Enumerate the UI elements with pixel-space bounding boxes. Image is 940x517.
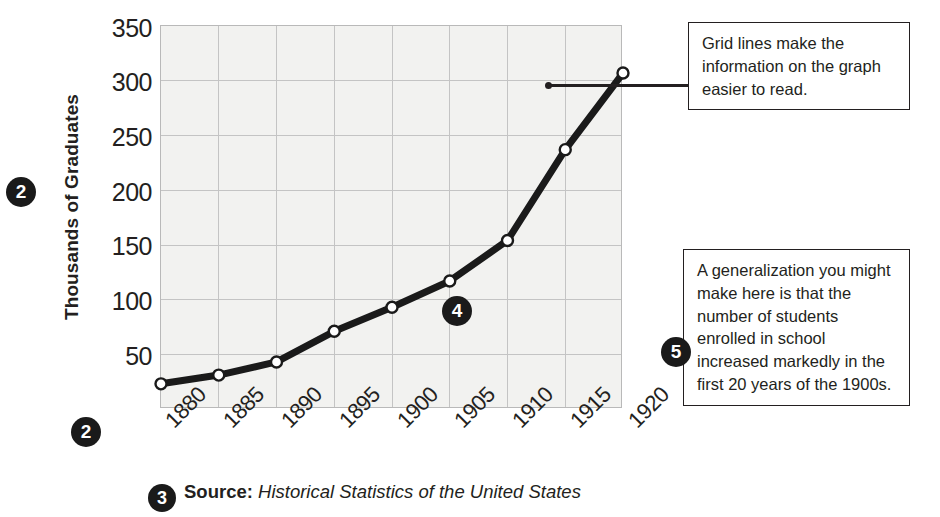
source-title: Historical Statistics of the United Stat… [258, 481, 581, 502]
y-axis-tick: 350 [112, 16, 152, 41]
callout-badge-3-source: 3 [148, 484, 176, 512]
source-label: Source: [184, 481, 253, 502]
data-point-marker [444, 275, 455, 286]
data-line [161, 73, 623, 384]
source-line: Source: Historical Statistics of the Uni… [184, 481, 581, 503]
callout-box-gridlines: Grid lines make the information on the g… [688, 22, 910, 110]
data-point-marker [387, 302, 398, 313]
y-axis-tick: 250 [112, 125, 152, 150]
callout-badge-4-plot: 4 [442, 296, 472, 326]
data-point-markers [156, 68, 629, 390]
data-point-marker [156, 378, 167, 389]
callout-badge-5-generalization: 5 [661, 337, 691, 367]
y-axis-tick: 50 [125, 344, 152, 369]
data-point-marker [213, 370, 224, 381]
y-axis-tick: 300 [112, 70, 152, 95]
data-point-marker [618, 68, 629, 79]
callout-text-generalization: A generalization you might make here is … [697, 259, 898, 396]
y-axis-tick: 200 [112, 180, 152, 205]
data-point-marker [329, 326, 340, 337]
callout-badge-2-x-axis: 2 [71, 417, 101, 447]
x-axis-tick-labels: 1880 1885 1890 1895 1900 1905 1910 1915 … [160, 415, 630, 485]
x-axis-tick: 1920 [623, 382, 675, 434]
y-axis-tick: 150 [112, 234, 152, 259]
callout-box-generalization: A generalization you might make here is … [683, 249, 910, 406]
y-axis-tick-labels: 350 300 250 200 150 100 50 [60, 0, 152, 430]
data-point-marker [560, 144, 571, 155]
data-point-marker [271, 356, 282, 367]
callout-text-gridlines: Grid lines make the information on the g… [702, 32, 898, 100]
data-point-marker [502, 235, 513, 246]
leader-line-bar [549, 84, 691, 87]
callout-leader-line [545, 82, 691, 89]
y-axis-tick: 100 [112, 289, 152, 314]
callout-badge-2-y-axis: 2 [6, 177, 36, 207]
